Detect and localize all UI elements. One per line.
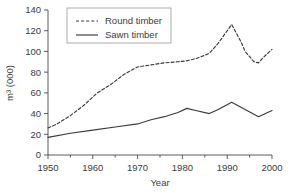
x-axis-title: Year [150, 177, 169, 188]
y-axis-ticks [44, 10, 48, 155]
y-axis-title: m³ (000) [4, 65, 15, 101]
y-tick-label: 100 [25, 46, 41, 57]
x-tick-label: 1980 [172, 162, 193, 173]
y-tick-label: 40 [30, 108, 41, 119]
chart-container: 020406080100120140 195019601970198019902… [0, 0, 295, 193]
legend-label-sawn-timber: Sawn timber [105, 29, 158, 40]
x-tick-label: 1950 [37, 162, 58, 173]
chart-legend: Round timberSawn timber [67, 8, 171, 43]
y-tick-label: 20 [30, 129, 41, 140]
line-chart: 020406080100120140 195019601970198019902… [0, 0, 295, 193]
x-tick-label: 1990 [217, 162, 238, 173]
y-tick-label: 120 [25, 25, 41, 36]
legend-label-round-timber: Round timber [105, 15, 162, 26]
y-tick-label: 80 [30, 67, 41, 78]
x-axis-tick-labels: 195019601970198019902000 [37, 162, 282, 173]
x-tick-label: 2000 [261, 162, 282, 173]
y-tick-label: 140 [25, 4, 41, 15]
y-tick-label: 0 [36, 149, 41, 160]
x-tick-label: 1970 [127, 162, 148, 173]
series-line-sawn-timber [48, 102, 272, 137]
x-tick-label: 1960 [82, 162, 103, 173]
y-tick-label: 60 [30, 87, 41, 98]
x-axis-ticks [48, 155, 272, 159]
y-axis-tick-labels: 020406080100120140 [25, 4, 41, 160]
